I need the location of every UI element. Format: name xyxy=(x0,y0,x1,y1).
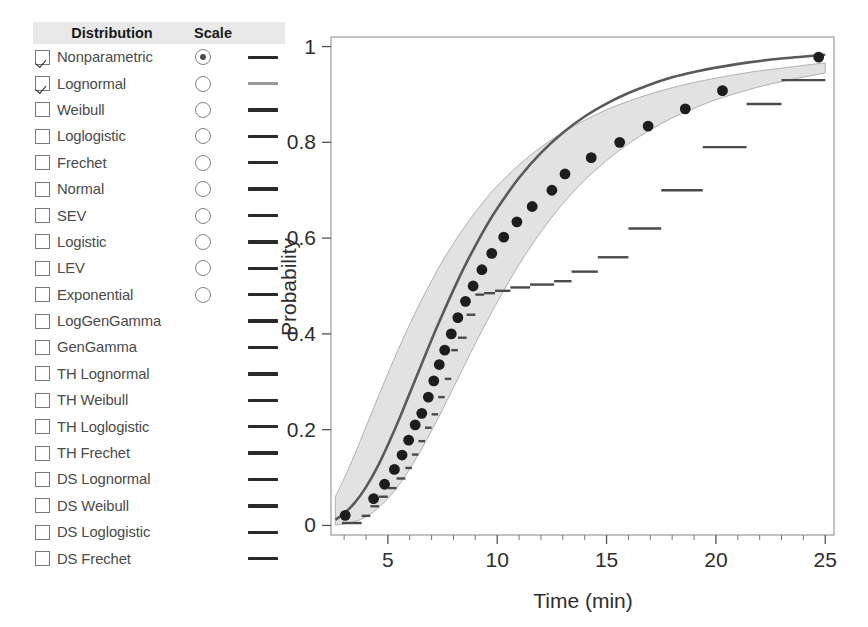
checkbox-unchecked-icon[interactable] xyxy=(35,261,50,276)
line-style-swatch-cell[interactable] xyxy=(241,478,285,481)
distribution-row[interactable]: LogGenGamma xyxy=(33,308,285,334)
distribution-checkbox-cell[interactable] xyxy=(33,261,57,276)
line-style-swatch[interactable] xyxy=(248,108,278,111)
distribution-checkbox-cell[interactable] xyxy=(33,393,57,408)
radio-unselected-icon[interactable] xyxy=(195,102,211,118)
line-style-swatch[interactable] xyxy=(248,214,278,217)
line-style-swatch-cell[interactable] xyxy=(241,531,285,534)
distribution-row[interactable]: TH Weibull xyxy=(33,387,285,413)
line-style-swatch-cell[interactable] xyxy=(241,187,285,190)
line-style-swatch[interactable] xyxy=(248,451,278,454)
distribution-row[interactable]: TH Loglogistic xyxy=(33,413,285,439)
checkbox-unchecked-icon[interactable] xyxy=(35,182,50,197)
distribution-checkbox-cell[interactable] xyxy=(33,234,57,249)
checkbox-unchecked-icon[interactable] xyxy=(35,393,50,408)
distribution-row[interactable]: DS Loglogistic xyxy=(33,519,285,545)
scale-radio-cell[interactable] xyxy=(187,102,241,118)
line-style-swatch[interactable] xyxy=(248,240,278,243)
distribution-row[interactable]: GenGamma xyxy=(33,334,285,360)
distribution-row[interactable]: DS Lognormal xyxy=(33,466,285,492)
checkbox-unchecked-icon[interactable] xyxy=(35,287,50,302)
distribution-row[interactable]: Frechet xyxy=(33,150,285,176)
scale-radio-cell[interactable] xyxy=(187,234,241,250)
radio-unselected-icon[interactable] xyxy=(195,155,211,171)
line-style-swatch-cell[interactable] xyxy=(241,293,285,296)
radio-unselected-icon[interactable] xyxy=(195,181,211,197)
line-style-swatch-cell[interactable] xyxy=(241,504,285,507)
line-style-swatch[interactable] xyxy=(248,187,278,190)
distribution-row[interactable]: Logistic xyxy=(33,229,285,255)
checkbox-unchecked-icon[interactable] xyxy=(35,419,50,434)
checkbox-unchecked-icon[interactable] xyxy=(35,472,50,487)
distribution-row[interactable]: Lognormal xyxy=(33,70,285,96)
distribution-row[interactable]: Exponential xyxy=(33,282,285,308)
line-style-swatch-cell[interactable] xyxy=(241,425,285,428)
checkbox-unchecked-icon[interactable] xyxy=(35,234,50,249)
line-style-swatch[interactable] xyxy=(248,399,278,402)
checkbox-checked-icon[interactable] xyxy=(35,50,50,65)
distribution-checkbox-cell[interactable] xyxy=(33,287,57,302)
line-style-swatch[interactable] xyxy=(248,56,278,59)
checkbox-unchecked-icon[interactable] xyxy=(35,314,50,329)
radio-unselected-icon[interactable] xyxy=(195,234,211,250)
checkbox-unchecked-icon[interactable] xyxy=(35,155,50,170)
line-style-swatch[interactable] xyxy=(248,319,278,322)
line-style-swatch-cell[interactable] xyxy=(241,319,285,322)
scale-radio-cell[interactable] xyxy=(187,128,241,144)
distribution-checkbox-cell[interactable] xyxy=(33,472,57,487)
line-style-swatch[interactable] xyxy=(248,346,278,349)
line-style-swatch[interactable] xyxy=(248,557,278,560)
line-style-swatch[interactable] xyxy=(248,504,278,507)
line-style-swatch[interactable] xyxy=(248,425,278,428)
scale-radio-cell[interactable] xyxy=(187,260,241,276)
scale-radio-cell[interactable] xyxy=(187,155,241,171)
distribution-checkbox-cell[interactable] xyxy=(33,446,57,461)
distribution-checkbox-cell[interactable] xyxy=(33,155,57,170)
line-style-swatch[interactable] xyxy=(248,293,278,296)
radio-unselected-icon[interactable] xyxy=(195,128,211,144)
scale-radio-cell[interactable] xyxy=(187,181,241,197)
distribution-checkbox-cell[interactable] xyxy=(33,314,57,329)
line-style-swatch[interactable] xyxy=(248,161,278,164)
checkbox-unchecked-icon[interactable] xyxy=(35,525,50,540)
distribution-checkbox-cell[interactable] xyxy=(33,50,57,65)
distribution-checkbox-cell[interactable] xyxy=(33,419,57,434)
distribution-row[interactable]: TH Frechet xyxy=(33,440,285,466)
distribution-row[interactable]: Nonparametric xyxy=(33,44,285,70)
checkbox-unchecked-icon[interactable] xyxy=(35,551,50,566)
line-style-swatch[interactable] xyxy=(248,267,278,270)
distribution-checkbox-cell[interactable] xyxy=(33,208,57,223)
distribution-row[interactable]: Normal xyxy=(33,176,285,202)
distribution-row[interactable]: LEV xyxy=(33,255,285,281)
line-style-swatch-cell[interactable] xyxy=(241,161,285,164)
distribution-checkbox-cell[interactable] xyxy=(33,551,57,566)
scale-radio-cell[interactable] xyxy=(187,76,241,92)
distribution-checkbox-cell[interactable] xyxy=(33,366,57,381)
distribution-checkbox-cell[interactable] xyxy=(33,340,57,355)
checkbox-checked-icon[interactable] xyxy=(35,76,50,91)
line-style-swatch-cell[interactable] xyxy=(241,214,285,217)
distribution-row[interactable]: Loglogistic xyxy=(33,123,285,149)
line-style-swatch-cell[interactable] xyxy=(241,108,285,111)
distribution-checkbox-cell[interactable] xyxy=(33,76,57,91)
line-style-swatch[interactable] xyxy=(248,135,278,138)
line-style-swatch-cell[interactable] xyxy=(241,240,285,243)
distribution-checkbox-cell[interactable] xyxy=(33,498,57,513)
distribution-checkbox-cell[interactable] xyxy=(33,182,57,197)
line-style-swatch-cell[interactable] xyxy=(241,372,285,375)
distribution-checkbox-cell[interactable] xyxy=(33,525,57,540)
line-style-swatch[interactable] xyxy=(248,531,278,534)
checkbox-unchecked-icon[interactable] xyxy=(35,498,50,513)
radio-unselected-icon[interactable] xyxy=(195,260,211,276)
radio-unselected-icon[interactable] xyxy=(195,287,211,303)
scale-radio-cell[interactable] xyxy=(187,287,241,303)
line-style-swatch-cell[interactable] xyxy=(241,399,285,402)
distribution-row[interactable]: TH Lognormal xyxy=(33,361,285,387)
distribution-row[interactable]: SEV xyxy=(33,202,285,228)
line-style-swatch-cell[interactable] xyxy=(241,267,285,270)
distribution-row[interactable]: DS Weibull xyxy=(33,493,285,519)
distribution-row[interactable]: DS Frechet xyxy=(33,545,285,571)
radio-unselected-icon[interactable] xyxy=(195,76,211,92)
line-style-swatch[interactable] xyxy=(248,478,278,481)
line-style-swatch-cell[interactable] xyxy=(241,346,285,349)
